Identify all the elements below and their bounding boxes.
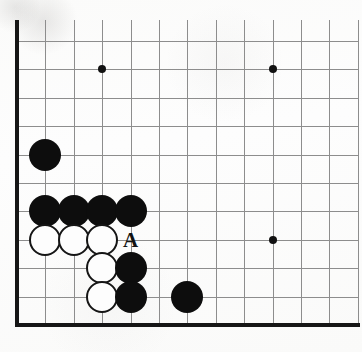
go-board-diagram: A — [0, 0, 362, 352]
point-label-layer: A — [0, 0, 362, 352]
point-label-a: A — [117, 226, 145, 254]
